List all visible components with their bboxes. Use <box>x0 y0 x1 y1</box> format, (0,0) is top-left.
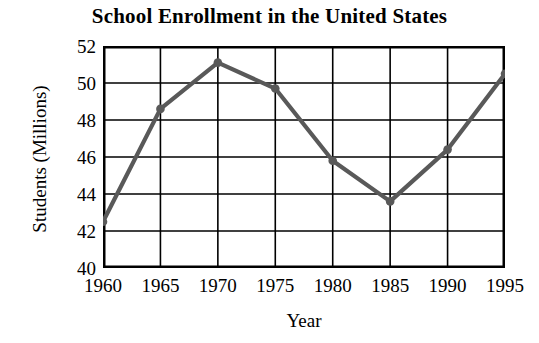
data-point-marker <box>271 84 280 93</box>
x-axis-tick-label: 1970 <box>186 276 250 295</box>
y-axis-tick-label: 44 <box>56 185 96 204</box>
x-axis-tick-label: 1985 <box>358 276 422 295</box>
chart-figure: School Enrollment in the United States S… <box>0 0 539 343</box>
data-series-line <box>103 63 505 222</box>
x-axis-tick-labels: 19601965197019751980198519901995 <box>103 276 505 302</box>
y-axis-tick-label: 50 <box>56 74 96 93</box>
x-axis-tick-label: 1980 <box>301 276 365 295</box>
x-axis-tick-label: 1990 <box>416 276 480 295</box>
y-axis-label: Students (Millions) <box>29 49 51 269</box>
line-chart-svg <box>103 46 505 268</box>
y-axis-tick-labels: 52504846444240 <box>52 46 96 268</box>
data-point-marker <box>386 197 395 206</box>
x-axis-tick-label: 1995 <box>473 276 537 295</box>
y-axis-tick-label: 52 <box>56 37 96 56</box>
x-axis-label: Year <box>103 310 505 332</box>
x-axis-tick-label: 1965 <box>128 276 192 295</box>
y-axis-tick-label: 42 <box>56 222 96 241</box>
y-axis-tick-label: 48 <box>56 111 96 130</box>
chart-title: School Enrollment in the United States <box>0 4 539 29</box>
data-point-marker <box>443 145 452 154</box>
gridlines <box>103 46 505 268</box>
plot-area <box>103 46 505 268</box>
data-point-marker <box>328 156 337 165</box>
data-point-marker <box>156 105 165 114</box>
x-axis-tick-label: 1960 <box>71 276 135 295</box>
x-axis-tick-label: 1975 <box>243 276 307 295</box>
y-axis-tick-label: 46 <box>56 148 96 167</box>
data-point-marker <box>214 58 223 67</box>
